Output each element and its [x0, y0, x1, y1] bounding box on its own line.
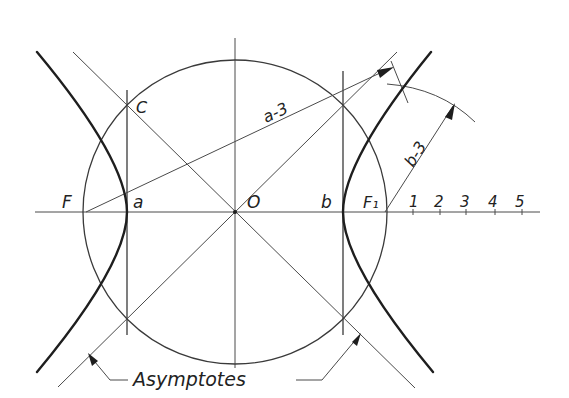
scale-label-5: 5 [515, 193, 525, 211]
label-b3: b-3 [400, 138, 430, 170]
label-O: O [247, 192, 260, 212]
label-b: b [321, 192, 332, 212]
scale-label-1: 1 [409, 193, 419, 211]
asymptotes-leader-right [296, 337, 358, 380]
label-a: a [133, 192, 143, 212]
asymptote-ascending [58, 52, 397, 387]
arrowhead-leader-right [352, 333, 361, 346]
scale-label-3: 3 [460, 193, 470, 211]
scale-label-2: 2 [434, 193, 444, 211]
center-point [233, 210, 237, 214]
scale-label-4: 4 [488, 193, 498, 211]
label-C: C [136, 98, 148, 117]
a3-line [86, 73, 380, 212]
label-a3: a-3 [260, 99, 291, 127]
a3-arc-tick [391, 61, 408, 103]
label-asymptotes: Asymptotes [131, 368, 246, 390]
arrowhead-b3 [445, 103, 455, 120]
label-F: F [62, 192, 72, 212]
hyperbola-diagram: F a O b F₁ C a-3 b-3 1 2 3 4 5 Asymptote… [0, 0, 569, 398]
b3-arc [387, 84, 475, 122]
label-F1: F₁ [363, 193, 379, 212]
asymptote-descending [73, 52, 415, 388]
